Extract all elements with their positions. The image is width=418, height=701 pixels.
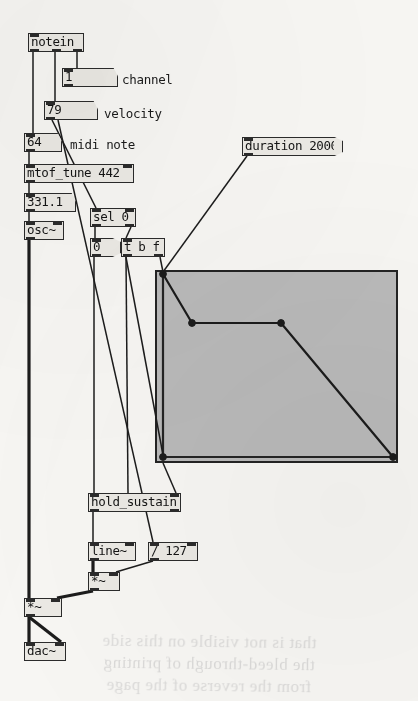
inlet-right[interactable] bbox=[170, 493, 179, 497]
outlet[interactable] bbox=[26, 237, 35, 241]
outlet-note[interactable] bbox=[30, 49, 39, 53]
paper-bleed-through: that is not visible on this side the ble… bbox=[0, 628, 418, 699]
inlet[interactable] bbox=[90, 542, 99, 546]
inlet[interactable] bbox=[46, 101, 55, 105]
outlet[interactable] bbox=[64, 84, 73, 88]
object-osc[interactable]: osc~ bbox=[24, 221, 64, 240]
comment-channel: channel bbox=[122, 72, 173, 87]
inlet-right[interactable] bbox=[55, 642, 64, 646]
inlet[interactable] bbox=[90, 493, 99, 497]
inlet[interactable] bbox=[90, 572, 99, 576]
outlet-channel[interactable] bbox=[73, 49, 82, 53]
message-box-zero[interactable]: 0 bbox=[90, 238, 112, 257]
outlet[interactable] bbox=[150, 558, 159, 562]
inlet[interactable] bbox=[30, 33, 39, 37]
object-hold-sustain[interactable]: hold_sustain bbox=[88, 493, 181, 512]
object-trigger-bang-float[interactable]: t b f bbox=[121, 238, 165, 257]
inlet-time[interactable] bbox=[125, 542, 134, 546]
outlet[interactable] bbox=[26, 180, 35, 184]
inlet[interactable] bbox=[64, 68, 73, 72]
number-box-midi-note[interactable]: 64 bbox=[24, 133, 52, 152]
inlet-right[interactable] bbox=[51, 598, 60, 602]
outlet[interactable] bbox=[244, 153, 253, 157]
outlet-float[interactable] bbox=[154, 254, 163, 258]
inlet-right[interactable] bbox=[109, 572, 118, 576]
comment-midi-note: midi note bbox=[70, 137, 135, 152]
outlet[interactable] bbox=[92, 254, 101, 258]
object-line-tilde[interactable]: line~ bbox=[88, 542, 136, 561]
inlet[interactable] bbox=[26, 193, 35, 197]
inlet-phase[interactable] bbox=[53, 221, 62, 225]
object-dac-tilde[interactable]: dac~ bbox=[24, 642, 66, 661]
number-box-channel[interactable]: 1 bbox=[62, 68, 108, 87]
inlet[interactable] bbox=[92, 208, 101, 212]
pd-patch-canvas: that is not visible on this side the ble… bbox=[0, 0, 418, 701]
inlet[interactable] bbox=[26, 221, 35, 225]
outlet[interactable] bbox=[26, 614, 35, 618]
outlet[interactable] bbox=[26, 209, 35, 213]
inlet-tune[interactable] bbox=[123, 164, 132, 168]
object-multiply-tilde-output[interactable]: *~ bbox=[24, 598, 62, 617]
inlet[interactable] bbox=[26, 598, 35, 602]
inlet[interactable] bbox=[244, 137, 253, 141]
inlet[interactable] bbox=[123, 238, 132, 242]
number-box-velocity[interactable]: 79 bbox=[44, 101, 88, 120]
outlet-velocity[interactable] bbox=[52, 49, 61, 53]
outlet[interactable] bbox=[26, 149, 35, 153]
outlet[interactable] bbox=[90, 509, 99, 513]
envelope-array-graph[interactable] bbox=[155, 270, 398, 463]
inlet-left[interactable] bbox=[26, 642, 35, 646]
outlet-match[interactable] bbox=[92, 224, 101, 228]
number-box-frequency[interactable]: 331.1 bbox=[24, 193, 66, 212]
outlet[interactable] bbox=[90, 588, 99, 592]
inlet[interactable] bbox=[150, 542, 159, 546]
outlet-bang[interactable] bbox=[123, 254, 132, 258]
inlet[interactable] bbox=[26, 133, 35, 137]
object-divide-127[interactable]: / 127 bbox=[148, 542, 198, 561]
object-sel-0[interactable]: sel 0 bbox=[90, 208, 136, 227]
message-box-duration[interactable]: duration 2000 bbox=[242, 137, 334, 156]
inlet[interactable] bbox=[26, 164, 35, 168]
object-multiply-tilde-envelope[interactable]: *~ bbox=[88, 572, 120, 591]
inlet-match[interactable] bbox=[125, 208, 134, 212]
object-notein[interactable]: notein bbox=[28, 33, 84, 52]
comment-velocity: velocity bbox=[104, 106, 162, 121]
object-mtof-tune[interactable]: mtof_tune 442 bbox=[24, 164, 134, 183]
inlet[interactable] bbox=[92, 238, 101, 242]
outlet[interactable] bbox=[46, 117, 55, 121]
outlet[interactable] bbox=[90, 558, 99, 562]
inlet-divisor[interactable] bbox=[187, 542, 196, 546]
outlet-right[interactable] bbox=[170, 509, 179, 513]
outlet-reject[interactable] bbox=[125, 224, 134, 228]
